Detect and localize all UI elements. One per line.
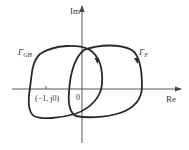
gamma-f-direction-arrow bbox=[134, 58, 139, 64]
gamma-gh-label: ΓGH bbox=[17, 47, 32, 58]
nyquist-diagram: Im Re 0 (−1, j0) ΓGH ΓF bbox=[0, 0, 189, 150]
imaginary-axis-label: Im bbox=[70, 6, 80, 16]
origin-label: 0 bbox=[76, 93, 80, 102]
real-axis-label: Re bbox=[166, 94, 176, 104]
gamma-f-curve bbox=[69, 46, 142, 118]
critical-point-label: (−1, j0) bbox=[35, 94, 59, 103]
gamma-f-label: ΓF bbox=[138, 47, 148, 58]
gamma-gh-curve bbox=[29, 46, 102, 118]
